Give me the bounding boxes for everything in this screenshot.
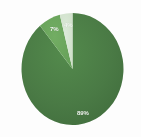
pie-label-minor: 4% xyxy=(64,22,72,28)
pie-label-major: 89% xyxy=(77,110,89,116)
pie-chart-figure: 89% 7% 4% xyxy=(0,0,141,137)
pie-label-secondary: 7% xyxy=(50,26,58,32)
pie-chart-canvas xyxy=(0,0,141,137)
